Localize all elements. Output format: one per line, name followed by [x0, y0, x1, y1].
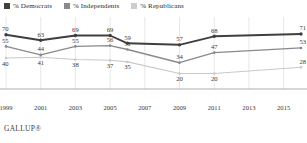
data-label: 68: [211, 27, 218, 34]
data-label: 57: [176, 35, 183, 42]
data-point: [39, 54, 42, 57]
data-label: 71: [299, 24, 306, 31]
data-point: [213, 51, 216, 54]
x-axis-tick: 2009: [173, 104, 186, 111]
data-point: [126, 48, 129, 51]
data-label: 20: [211, 75, 218, 82]
x-axis-tick: 2007: [138, 104, 151, 111]
x-axis-tick: 2005: [104, 104, 117, 111]
x-axis-tick: 2001: [34, 104, 47, 111]
data-label: 63: [37, 31, 44, 38]
line-chart: 7063696959576871554455565134475340413837…: [0, 17, 307, 101]
data-label: 40: [2, 60, 9, 67]
legend-swatch-republicans: [131, 3, 137, 9]
legend-swatch-democrats: [4, 3, 10, 9]
series-line-independents: [6, 46, 301, 63]
data-label: 47: [211, 43, 218, 50]
x-axis-tick: 2011: [208, 104, 221, 111]
data-label: 55: [2, 37, 9, 44]
data-label: 44: [37, 45, 44, 52]
data-label: 34: [176, 53, 183, 60]
chart-svg: 7063696959576871554455565134475340413837…: [0, 17, 307, 103]
x-axis-tick: 2003: [69, 104, 82, 111]
data-point: [39, 38, 42, 41]
source-attribution: GALLUP®: [4, 124, 41, 133]
data-label: 38: [72, 61, 79, 68]
data-point: [300, 66, 303, 69]
data-label: 53: [299, 38, 306, 45]
x-axis-tick: 2015: [277, 104, 290, 111]
legend-item-republicans: % Republicans: [131, 2, 184, 10]
legend-item-independents: % Independents: [64, 2, 119, 10]
legend-swatch-independents: [64, 3, 70, 9]
data-label: 28: [299, 58, 306, 65]
legend-label-republicans: % Republicans: [140, 2, 184, 10]
x-axis-tick: 1999: [0, 104, 13, 111]
series-line-republicans: [6, 57, 301, 73]
data-point: [213, 35, 216, 38]
chart-legend: % Democrats % Independents % Republicans: [4, 2, 184, 10]
data-label: 55: [72, 37, 79, 44]
data-point: [74, 45, 77, 48]
data-point: [109, 44, 112, 47]
legend-label-independents: % Independents: [73, 2, 119, 10]
data-point: [300, 47, 303, 50]
data-label: 37: [107, 62, 114, 69]
legend-item-democrats: % Democrats: [4, 2, 52, 10]
data-point: [178, 61, 181, 64]
x-axis-tick: 2013: [242, 104, 255, 111]
data-point: [5, 45, 8, 48]
data-label: 35: [124, 63, 131, 70]
data-label: 41: [37, 59, 44, 66]
data-point: [299, 32, 302, 35]
x-axis-labels: 199920012003200520072009201120132015: [0, 104, 307, 116]
data-label: 69: [72, 26, 79, 33]
data-label: 20: [176, 75, 183, 82]
data-label: 51: [124, 40, 131, 47]
data-label: 69: [107, 26, 114, 33]
series-line-democrats: [6, 34, 301, 45]
data-label: 56: [107, 36, 114, 43]
data-point: [178, 43, 181, 46]
legend-label-democrats: % Democrats: [13, 2, 52, 10]
data-label: 70: [2, 25, 9, 32]
